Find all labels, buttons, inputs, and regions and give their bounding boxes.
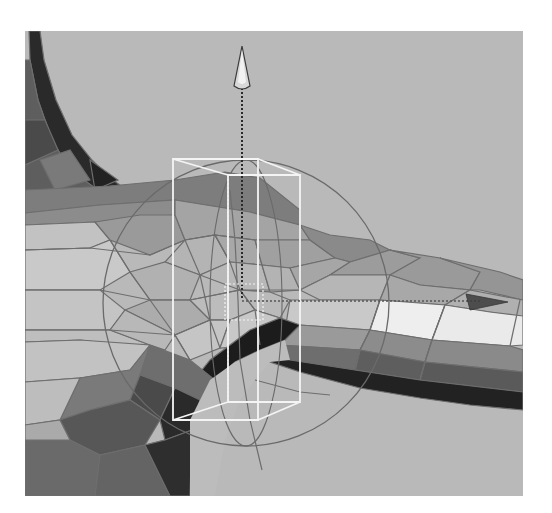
viewport-canvas[interactable] [25,31,523,496]
3d-viewport[interactable] [25,31,523,496]
